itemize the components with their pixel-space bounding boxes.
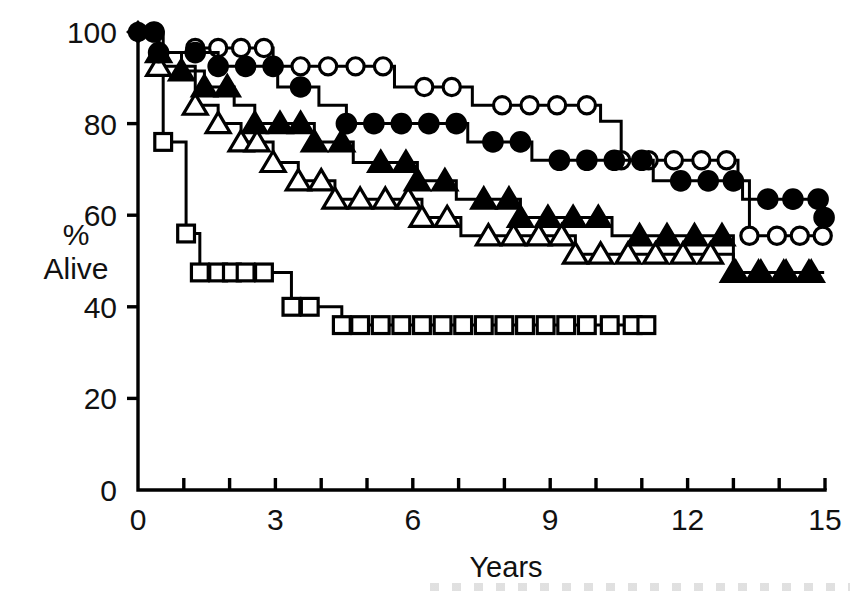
y-axis-label-line1: % [28,218,124,252]
marker-circle-filled [633,151,651,169]
marker-circle-open [443,78,460,95]
marker-square-open [414,317,431,334]
marker-circle-filled [447,114,465,132]
marker-circle-open [347,58,364,75]
x-tick-label: 6 [404,503,421,536]
marker-circle-filled [365,114,383,132]
marker-circle-filled [759,190,777,208]
marker-square-open [393,317,410,334]
marker-circle-filled [815,208,833,226]
marker-square-open [352,317,369,334]
marker-square-open [496,317,513,334]
marker-square-open [434,317,451,334]
marker-square-open [191,264,208,281]
marker-circle-filled [149,43,167,61]
marker-square-open [601,317,618,334]
figure-canvas: 02040608010003691215 % Alive Years [0,0,862,596]
y-tick-label: 0 [100,474,117,507]
survival-curve-svg: 02040608010003691215 [0,0,862,596]
marker-circle-filled [550,151,568,169]
marker-square-open [638,317,655,334]
marker-circle-open [768,227,785,244]
marker-circle-open [665,152,682,169]
marker-circle-filled [724,172,742,190]
marker-circle-filled [264,57,282,75]
x-tick-label: 12 [671,503,704,536]
x-tick-label: 0 [130,503,147,536]
x-tick-label: 15 [808,503,841,536]
marker-circle-open [693,152,710,169]
marker-circle-open [292,58,309,75]
x-tick-label: 3 [267,503,284,536]
scan-artifact-strip [430,583,850,591]
marker-circle-filled [236,57,254,75]
marker-circle-filled [511,133,529,151]
marker-square-open [178,225,195,242]
y-tick-label: 80 [84,108,117,141]
marker-square-open [283,298,300,315]
marker-circle-filled [578,151,596,169]
marker-circle-open [718,152,735,169]
marker-circle-open [232,39,249,56]
x-axis-label-text: Years [469,551,542,584]
marker-circle-open [791,227,808,244]
marker-circle-open [255,39,272,56]
marker-circle-open [814,227,831,244]
marker-square-open [537,317,554,334]
marker-square-open [333,317,350,334]
marker-circle-filled [484,133,502,151]
marker-square-open [578,317,595,334]
marker-circle-filled [209,57,227,75]
marker-circle-filled [784,190,802,208]
marker-square-open [155,134,172,151]
marker-circle-filled [699,172,717,190]
curves-group [128,22,833,333]
marker-circle-open [741,227,758,244]
marker-circle-filled [337,114,355,132]
marker-circle-filled [186,43,204,61]
x-tick-label: 9 [542,503,559,536]
y-tick-label: 100 [67,16,117,49]
series-open-circle [129,23,831,244]
marker-circle-open [494,97,511,114]
marker-square-open [256,264,273,281]
marker-circle-filled [420,114,438,132]
marker-circle-filled [605,151,623,169]
y-axis-label: % Alive [28,218,124,286]
marker-circle-open [416,78,433,95]
marker-circle-open [374,58,391,75]
marker-square-open [558,317,575,334]
marker-circle-open [548,97,565,114]
marker-square-open [237,264,254,281]
marker-circle-filled [672,172,690,190]
marker-square-open [517,317,534,334]
y-axis-label-line2: Alive [28,252,124,286]
y-tick-label: 20 [84,382,117,415]
marker-circle-filled [392,114,410,132]
marker-square-open [372,317,389,334]
marker-circle-open [521,97,538,114]
marker-square-open [455,317,472,334]
marker-square-open [475,317,492,334]
x-axis-label: Years [0,551,862,584]
marker-circle-filled [291,78,309,96]
marker-circle-open [578,97,595,114]
series-open-square [138,32,655,334]
marker-circle-open [319,58,336,75]
marker-square-open [301,298,318,315]
marker-circle-filled [809,190,827,208]
y-tick-label: 40 [84,291,117,324]
